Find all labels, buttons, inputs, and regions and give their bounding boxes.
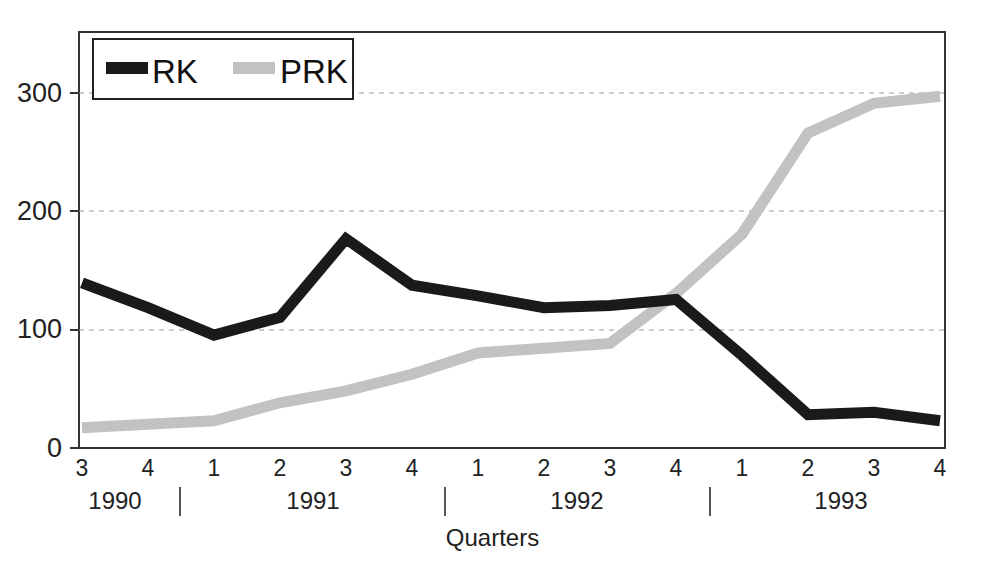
legend-label-prk: PRK [280,53,348,90]
legend-label-rk: RK [152,53,198,90]
year-label: 1993 [781,487,901,515]
xtick-label: 2 [788,455,828,482]
xtick-label: 2 [524,455,564,482]
ytick-label-100: 100 [0,314,62,345]
year-label: 1991 [253,487,373,515]
xtick-label: 4 [392,455,432,482]
xtick-label: 4 [128,455,168,482]
ytick-label-200: 200 [0,196,62,227]
xtick-label: 3 [326,455,366,482]
xtick-label: 2 [260,455,300,482]
ytick-label-0: 0 [0,433,62,464]
legend-swatch-rk [106,62,148,74]
xtick-label: 4 [920,455,960,482]
xtick-label: 1 [194,455,234,482]
xtick-label: 4 [656,455,696,482]
xtick-label: 1 [458,455,498,482]
xtick-label: 3 [590,455,630,482]
xtick-label: 3 [854,455,894,482]
legend: RK PRK [93,39,353,99]
year-label: 1990 [55,487,175,515]
legend-swatch-prk [233,62,275,74]
year-label: 1992 [517,487,637,515]
y-axis-ticks [70,93,79,448]
x-axis-title: Quarters [0,524,985,552]
ytick-label-300: 300 [0,78,62,109]
xtick-label: 3 [62,455,102,482]
xtick-label: 1 [722,455,762,482]
line-chart: RK PRK 300 200 100 0 34123412341234 1990… [0,0,985,575]
